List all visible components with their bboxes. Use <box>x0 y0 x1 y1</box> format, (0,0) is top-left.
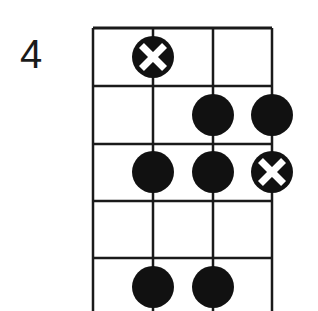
root-note-marker <box>132 36 174 78</box>
note-dot <box>251 94 293 136</box>
root-note-marker <box>251 151 293 193</box>
note-dot <box>192 151 234 193</box>
note-dot <box>192 94 234 136</box>
fretboard-diagram <box>0 0 318 311</box>
note-dot <box>192 266 234 308</box>
note-dot <box>132 266 174 308</box>
note-dot <box>132 151 174 193</box>
fretboard-grid <box>93 28 272 311</box>
